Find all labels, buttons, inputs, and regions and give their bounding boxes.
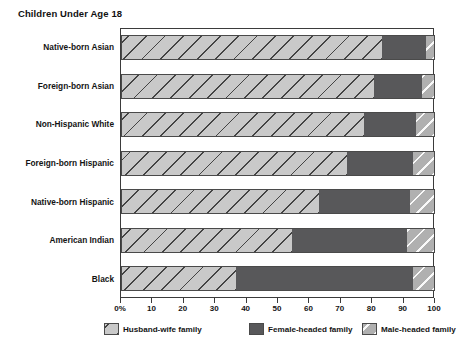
bar-row xyxy=(121,29,433,68)
y-axis-label: Native-born Hispanic xyxy=(0,197,114,207)
bar-segment xyxy=(236,266,413,291)
legend-swatch-icon xyxy=(362,323,377,335)
x-axis-tick-label: 60 xyxy=(304,304,313,313)
x-axis-tick-label: 10 xyxy=(147,304,156,313)
stacked-bar xyxy=(121,35,433,60)
bar-segment xyxy=(121,228,292,253)
x-axis-tick-label: 40 xyxy=(241,304,250,313)
bar-segment xyxy=(413,151,435,176)
x-axis-tick-label: 0% xyxy=(114,304,126,313)
stacked-bar xyxy=(121,266,433,291)
stacked-bar xyxy=(121,74,433,99)
legend-label: Female-headed family xyxy=(268,325,353,334)
bar-segment xyxy=(416,112,435,137)
bar-row xyxy=(121,222,433,261)
x-axis-tick xyxy=(403,298,404,303)
bar-segment xyxy=(121,151,347,176)
legend-label: Husband-wife family xyxy=(123,325,202,334)
x-axis-tick-label: 30 xyxy=(210,304,219,313)
y-axis-label: Black xyxy=(0,274,114,284)
y-axis-label: Foreign-born Hispanic xyxy=(0,158,114,168)
y-axis-label: American Indian xyxy=(0,235,114,245)
stacked-bar xyxy=(121,112,433,137)
x-axis-tick xyxy=(434,298,435,303)
chart-legend: Husband-wife familyFemale-headed familyM… xyxy=(104,322,444,338)
bar-segment xyxy=(364,112,416,137)
x-axis-tick-label: 90 xyxy=(398,304,407,313)
bar-segment xyxy=(121,112,364,137)
x-axis-tick xyxy=(120,298,121,303)
chart-title: Children Under Age 18 xyxy=(18,8,122,19)
bar-segment xyxy=(413,266,435,291)
x-axis-tick xyxy=(308,298,309,303)
y-axis-label: Native-born Asian xyxy=(0,42,114,52)
y-axis-label: Non-Hispanic White xyxy=(0,119,114,129)
x-axis-tick xyxy=(371,298,372,303)
y-axis-label: Foreign-born Asian xyxy=(0,81,114,91)
legend-swatch-icon xyxy=(249,323,264,335)
x-axis-tick xyxy=(340,298,341,303)
bar-segment xyxy=(410,189,435,214)
plot-area xyxy=(120,28,434,298)
bar-segment xyxy=(374,74,423,99)
bar-row xyxy=(121,145,433,184)
stacked-bar xyxy=(121,151,433,176)
stacked-bar xyxy=(121,189,433,214)
bar-segment xyxy=(121,35,382,60)
x-axis-tick xyxy=(214,298,215,303)
bar-segment xyxy=(292,228,407,253)
x-axis-tick xyxy=(277,298,278,303)
x-axis-tick-label: 70 xyxy=(335,304,344,313)
bar-row xyxy=(121,183,433,222)
x-axis-tick xyxy=(151,298,152,303)
x-axis-tick-label: 100 xyxy=(427,304,440,313)
bar-segment xyxy=(422,74,435,99)
stacked-bar xyxy=(121,228,433,253)
x-axis: 0%102030405060708090100 xyxy=(120,298,434,322)
x-axis-tick-label: 50 xyxy=(273,304,282,313)
legend-item: Husband-wife family xyxy=(104,322,202,336)
bar-segment xyxy=(382,35,426,60)
bar-segment xyxy=(407,228,435,253)
legend-item: Male-headed family xyxy=(362,322,456,336)
bar-segment xyxy=(319,189,410,214)
bar-segment xyxy=(121,74,374,99)
x-axis-tick-label: 20 xyxy=(178,304,187,313)
legend-item: Female-headed family xyxy=(249,322,353,336)
x-axis-tick-label: 80 xyxy=(367,304,376,313)
legend-label: Male-headed family xyxy=(381,325,456,334)
x-axis-tick xyxy=(183,298,184,303)
bar-row xyxy=(121,106,433,145)
bar-segment xyxy=(347,151,413,176)
bar-row xyxy=(121,260,433,299)
bar-row xyxy=(121,68,433,107)
bar-segment xyxy=(426,35,435,60)
bar-segment xyxy=(121,266,236,291)
x-axis-tick xyxy=(246,298,247,303)
bar-segment xyxy=(121,189,319,214)
legend-swatch-icon xyxy=(104,323,119,335)
